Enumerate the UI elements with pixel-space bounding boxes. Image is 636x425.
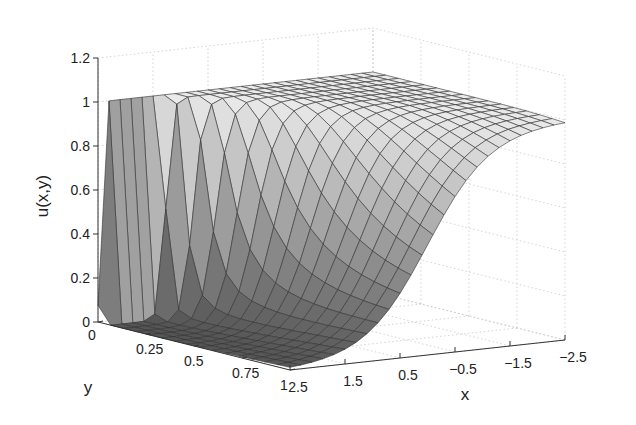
- y-tick-label: 0.5: [184, 353, 204, 369]
- z-tick-label: 0.2: [71, 270, 91, 286]
- z-tick-label: 0.8: [71, 138, 91, 154]
- x-tick-label: 2.5: [288, 379, 308, 395]
- y-axis-label: y: [84, 378, 93, 397]
- z-tick-label: 1.2: [71, 50, 91, 66]
- z-axis-label: u(x,y): [33, 175, 52, 218]
- x-tick-label: −2.5: [559, 349, 587, 365]
- y-tick-label: 0.25: [136, 341, 163, 357]
- y-tick-label: 1: [280, 377, 288, 393]
- z-tick-label: 0.4: [71, 226, 91, 242]
- z-tick-label: 1: [82, 94, 90, 110]
- x-tick-label: 1.5: [343, 373, 363, 389]
- surface-mesh: [98, 72, 565, 367]
- x-axis-label: x: [461, 385, 470, 404]
- y-tick-label: 0: [88, 327, 96, 343]
- z-axis-ticks: 00.20.40.60.811.2: [71, 50, 98, 330]
- z-tick-label: 0.6: [71, 182, 91, 198]
- x-tick-label: −1.5: [504, 355, 532, 371]
- x-tick-label: −0.5: [449, 361, 477, 377]
- y-tick-label: 0.75: [232, 365, 259, 381]
- surface-plot: 00.20.40.60.811.2 00.250.50.751 2.51.50.…: [0, 0, 636, 425]
- x-tick-label: 0.5: [398, 367, 418, 383]
